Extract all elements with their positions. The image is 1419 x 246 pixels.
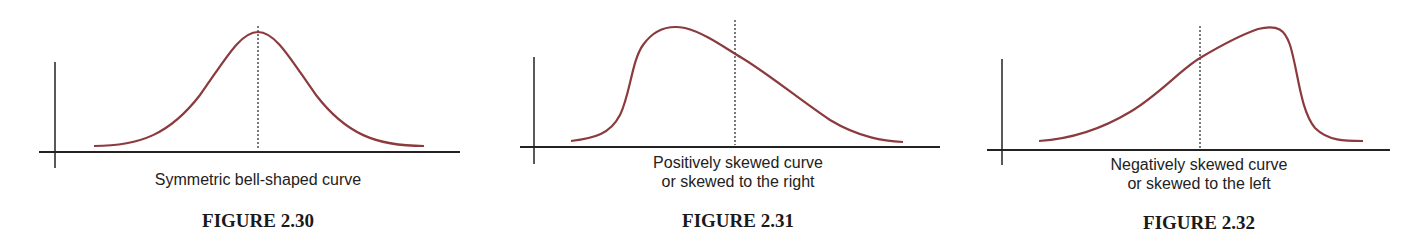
figure-label: FIGURE 2.31 <box>480 210 996 232</box>
caption: Negatively skewed curve or skewed to the… <box>960 155 1419 193</box>
caption-line-2: or skewed to the left <box>960 174 1419 193</box>
left-skewed-curve-diagram <box>960 0 1419 246</box>
figure-label: FIGURE 2.30 <box>0 210 516 232</box>
figure-label: FIGURE 2.32 <box>960 212 1419 234</box>
caption-line-1: Positively skewed curve <box>480 153 996 172</box>
caption: Symmetric bell-shaped curve <box>0 170 516 189</box>
caption-line-2: or skewed to the right <box>480 172 996 191</box>
skewed-curve <box>1039 27 1363 141</box>
caption: Positively skewed curve or skewed to the… <box>480 153 996 191</box>
figure-2-30: Symmetric bell-shaped curve FIGURE 2.30 <box>0 0 480 246</box>
figure-2-31: Positively skewed curve or skewed to the… <box>480 0 960 246</box>
bell-curve <box>94 32 424 146</box>
caption-line-1: Symmetric bell-shaped curve <box>0 170 516 189</box>
skewed-curve <box>571 27 903 142</box>
caption-line-1: Negatively skewed curve <box>960 155 1419 174</box>
figure-2-32: Negatively skewed curve or skewed to the… <box>960 0 1419 246</box>
